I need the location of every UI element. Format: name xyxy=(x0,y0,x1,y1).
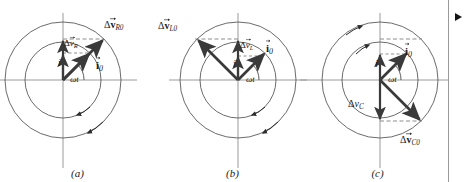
label-current-phasor-a: i0 xyxy=(96,60,103,73)
v-symbol-a2: v xyxy=(70,38,74,48)
label-voltage-phasor-a: ΔvR0 xyxy=(104,20,123,32)
label-voltage-instant-c: ΔvC xyxy=(348,99,364,111)
v-sub-c1: C0 xyxy=(411,139,419,147)
panel-b-graphic xyxy=(155,0,310,182)
edge-triangle-marker-icon xyxy=(455,13,462,21)
i-sub-c1: 0 xyxy=(408,50,412,59)
v-symbol-c1: v xyxy=(406,134,411,145)
v-sub-b1: L0 xyxy=(169,25,177,33)
label-current-phasor-c: i0 xyxy=(405,46,412,59)
i-symbol-b1: i xyxy=(266,42,269,54)
label-current-instant-c: i xyxy=(375,59,378,69)
i-symbol-c1: i xyxy=(405,45,408,57)
rotation-marker-inner xyxy=(77,107,90,115)
label-voltage-phasor-c: ΔvC0 xyxy=(400,135,420,147)
panel-c-caption: (c) xyxy=(300,167,455,179)
label-current-instant-a: i xyxy=(58,58,61,68)
phasor-figure: ΔvR0 ΔvR i0 i ωt (a) xyxy=(0,0,465,182)
label-angle-b: ωt xyxy=(246,75,255,84)
panel-c-capacitor: ΔvC0 ΔvC i0 i ωt (c) xyxy=(300,0,455,182)
label-voltage-instant-b: ΔvL xyxy=(240,41,253,51)
label-angle-c: ωt xyxy=(388,75,397,84)
label-current-instant-b: i xyxy=(233,59,236,69)
panel-b-inductor: ΔvL0 ΔvL i0 i ωt (b) xyxy=(155,0,310,182)
voltage-phasor-arrow xyxy=(380,80,420,120)
panel-a-graphic xyxy=(0,0,155,182)
v-sub-a2: R xyxy=(74,42,78,49)
rotation-marker-outer xyxy=(346,26,362,35)
v-sub-a1: R0 xyxy=(115,24,123,32)
label-voltage-instant-a: ΔvR xyxy=(64,39,78,49)
panel-a-caption: (a) xyxy=(0,167,155,179)
panel-b-caption: (b) xyxy=(155,167,310,179)
page-edge-divider xyxy=(448,0,449,182)
v-symbol-b2: v xyxy=(246,40,250,50)
label-voltage-phasor-b: ΔvL0 xyxy=(158,21,177,33)
v-symbol-b1: v xyxy=(164,20,169,31)
label-current-phasor-b: i0 xyxy=(266,43,273,56)
i-sub-b1: 0 xyxy=(269,47,273,56)
i-symbol-a1: i xyxy=(96,59,99,71)
v-symbol-a1: v xyxy=(110,19,115,30)
rotation-marker-inner xyxy=(252,107,265,115)
label-angle-a: ωt xyxy=(70,75,79,84)
i-sub-a1: 0 xyxy=(99,64,103,73)
panel-a-resistor: ΔvR0 ΔvR i0 i ωt (a) xyxy=(0,0,155,182)
v-sub-c2: C xyxy=(359,103,364,111)
v-sub-b2: L xyxy=(250,44,254,51)
panel-c-graphic xyxy=(300,0,465,182)
